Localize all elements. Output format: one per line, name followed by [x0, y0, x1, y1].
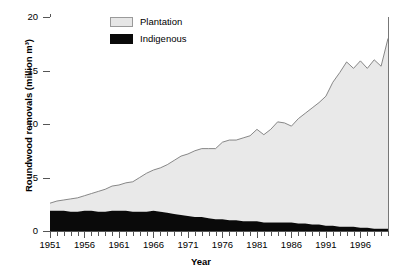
- legend-label-plantation: Plantation: [140, 17, 182, 27]
- x-tick-1968: [167, 232, 168, 236]
- x-tick-label-1996: 1996: [340, 240, 380, 250]
- x-tick-1972: [195, 232, 196, 236]
- y-tick-label-0: 0: [0, 226, 38, 236]
- x-tick-1951: [50, 232, 51, 238]
- x-tick-1967: [160, 232, 161, 236]
- x-tick-1986: [291, 232, 292, 238]
- x-tick-1962: [126, 232, 127, 236]
- legend-item-plantation: Plantation: [110, 15, 186, 28]
- y-tick-label-15: 15: [0, 66, 38, 76]
- x-tick-1991: [326, 232, 327, 238]
- chart-legend: Plantation Indigenous: [110, 15, 186, 49]
- chart-figure: Roundwood removals (million m³) 05101520…: [0, 0, 402, 275]
- x-tick-1974: [209, 232, 210, 236]
- y-tick-15: [43, 71, 50, 72]
- plot-area: [50, 17, 388, 231]
- y-tick-5: [43, 178, 50, 179]
- x-tick-1971: [188, 232, 189, 238]
- x-tick-1997: [367, 232, 368, 236]
- right-spine: [388, 17, 389, 231]
- x-tick-1980: [250, 232, 251, 236]
- x-tick-1975: [216, 232, 217, 236]
- x-tick-1979: [243, 232, 244, 236]
- y-tick-label-20: 20: [0, 12, 38, 22]
- legend-label-indigenous: Indigenous: [140, 34, 186, 44]
- stacked-area-series: [50, 17, 388, 231]
- x-tick-1978: [236, 232, 237, 236]
- x-tick-1981: [257, 232, 258, 238]
- x-tick-1966: [153, 232, 154, 238]
- y-tick-label-5: 5: [0, 173, 38, 183]
- x-tick-1982: [264, 232, 265, 236]
- x-tick-1952: [57, 232, 58, 236]
- x-tick-1996: [360, 232, 361, 238]
- x-tick-1985: [285, 232, 286, 236]
- x-tick-1977: [229, 232, 230, 236]
- legend-swatch-plantation: [110, 17, 133, 27]
- x-tick-1969: [174, 232, 175, 236]
- x-tick-1954: [71, 232, 72, 236]
- x-tick-1992: [333, 232, 334, 236]
- y-tick-10: [43, 124, 50, 125]
- y-tick-20: [43, 17, 50, 18]
- x-tick-2000: [388, 232, 389, 236]
- x-axis-line: [50, 231, 389, 232]
- x-tick-1984: [278, 232, 279, 236]
- x-tick-1958: [98, 232, 99, 236]
- x-tick-1987: [298, 232, 299, 236]
- x-tick-1994: [347, 232, 348, 236]
- x-tick-1964: [140, 232, 141, 236]
- x-tick-1965: [147, 232, 148, 236]
- legend-swatch-indigenous: [110, 34, 133, 44]
- legend-item-indigenous: Indigenous: [110, 32, 186, 45]
- x-tick-1995: [354, 232, 355, 236]
- x-tick-1963: [133, 232, 134, 236]
- x-tick-1983: [271, 232, 272, 236]
- x-tick-1960: [112, 232, 113, 236]
- x-tick-1988: [305, 232, 306, 236]
- x-tick-1955: [78, 232, 79, 236]
- x-tick-1953: [64, 232, 65, 236]
- x-tick-1959: [105, 232, 106, 236]
- x-tick-1956: [84, 232, 85, 238]
- x-tick-1990: [319, 232, 320, 236]
- x-tick-1998: [374, 232, 375, 236]
- x-tick-1970: [181, 232, 182, 236]
- y-tick-label-10: 10: [0, 119, 38, 129]
- x-tick-1961: [119, 232, 120, 238]
- x-tick-1989: [312, 232, 313, 236]
- x-axis-title: Year: [0, 256, 402, 267]
- x-tick-1999: [381, 232, 382, 236]
- x-tick-1973: [202, 232, 203, 236]
- area-plantation: [50, 38, 388, 228]
- y-tick-0: [43, 231, 50, 232]
- x-tick-1957: [91, 232, 92, 236]
- x-tick-1993: [340, 232, 341, 236]
- x-tick-1976: [222, 232, 223, 238]
